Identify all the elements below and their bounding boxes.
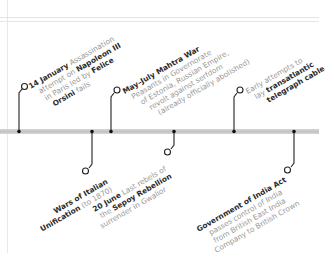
timeline-dot-icon [17,130,21,134]
circle-marker-icon [22,84,28,90]
timeline-dot-icon [172,130,176,134]
timeline-dot-icon [292,130,296,134]
circle-marker-icon [165,149,171,155]
timeline-dot-icon [109,130,113,134]
connector-sepoy [171,131,174,149]
connector-italian [89,131,92,168]
timeline-dot-icon [232,130,236,134]
connector-india-act [291,131,294,167]
timeline-dot-icon [90,130,94,134]
circle-marker-icon [83,168,89,174]
connector-telegraph [234,93,237,131]
circle-marker-icon [285,167,291,173]
connector-orsini [19,89,22,131]
circle-marker-icon [237,87,243,93]
connector-mahtra [111,93,114,131]
circle-marker-icon [114,87,120,93]
